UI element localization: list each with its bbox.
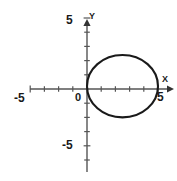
x-axis-name-label: X — [162, 75, 168, 84]
x-axis-tick-label-5: 5 — [157, 91, 164, 103]
x-axis-arrow-icon — [167, 85, 174, 92]
y-axis-tick-label-negative-5: -5 — [62, 139, 73, 151]
origin-label: 0 — [75, 92, 81, 103]
y-axis-name-label: Y — [89, 12, 95, 21]
x-axis-tick-label-negative-5: -5 — [14, 92, 25, 104]
ellipse-curve — [87, 55, 158, 117]
plot-canvas — [0, 0, 177, 181]
y-axis-tick-label-5: 5 — [66, 14, 73, 26]
coordinate-plane-figure: 5 Y -5 -5 5 X 0 — [0, 0, 177, 181]
